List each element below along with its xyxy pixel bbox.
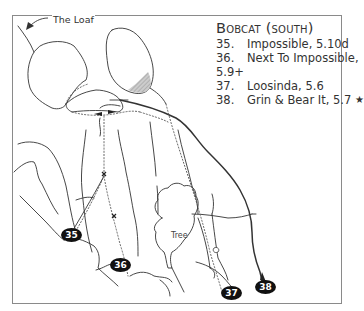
route-item: 38. Grin & Bear It, 5.7 ★ [216,93,364,107]
legend-title: Bobcat (south) [216,20,364,37]
main-outline [120,100,264,292]
middle-ledge [66,90,123,112]
edge-line [18,26,34,52]
tree-outline [154,183,198,268]
route-badge-37: 37 [221,286,242,300]
route-item: 36. Next To Impossible, [216,51,364,65]
route-badge-36: 36 [110,258,131,272]
left-boulder [28,42,87,109]
route-item: 35. Impossible, 5.10d [216,37,364,51]
route-item-continuation: 5.9+ [216,65,364,79]
tree-label: Tree [171,231,188,240]
route-item: 37. Loosinda, 5.6 [216,79,364,93]
star-icon: ★ [355,93,364,107]
route-legend: Bobcat (south) 35. Impossible, 5.10d 36.… [216,20,364,107]
route-badge-38: 38 [255,280,276,294]
loaf-label: The Loaf [52,14,95,25]
route-badge-35: 35 [61,228,82,242]
